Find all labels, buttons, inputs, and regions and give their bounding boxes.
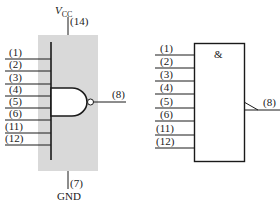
input-pin-label: (3) [160, 68, 173, 81]
input-pin-label: (4) [160, 81, 173, 94]
vcc-pin-label: (14) [70, 15, 89, 28]
input-pin-label: (2) [160, 55, 173, 68]
input-pin-label: (12) [156, 135, 175, 148]
negation-indicator [244, 102, 258, 110]
input-pin-label: (5) [160, 95, 173, 108]
output-pin-label: (8) [263, 96, 276, 109]
input-pin-label: (6) [160, 108, 173, 121]
output-pin-label: (8) [112, 88, 125, 101]
input-pin-label: (11) [156, 122, 174, 135]
nand-gate-body [51, 88, 87, 116]
nand-gate-diagram: VCC (14) (1) (2) (3) (4) (5) (6) (11) (1… [0, 0, 280, 205]
right-symbol: & (1) (2) (3) (4) (5) (6) (11) (12) (8) [155, 42, 280, 162]
input-pin-label: (2) [9, 58, 22, 71]
input-pin-label: (1) [160, 42, 173, 55]
iec-gate-box [195, 44, 245, 162]
right-inputs: (1) (2) (3) (4) (5) (6) (11) (12) [155, 42, 194, 148]
gnd-label: GND [57, 190, 81, 202]
inversion-bubble [88, 99, 94, 105]
input-pin-label: (12) [5, 132, 24, 145]
and-qualifier: & [214, 48, 223, 60]
input-pin-label: (6) [9, 107, 22, 120]
left-symbol: VCC (14) (1) (2) (3) (4) (5) (6) (11) (1… [5, 4, 126, 202]
gnd-pin-label: (7) [70, 177, 83, 190]
